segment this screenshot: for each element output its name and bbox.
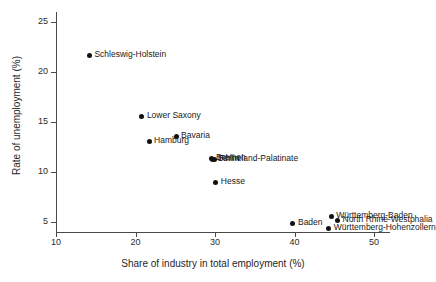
data-point (212, 157, 217, 162)
x-tick-label: 50 (359, 238, 389, 247)
x-tick-label: 20 (121, 238, 151, 247)
data-point (329, 214, 334, 219)
data-point-label: Hamburg (154, 136, 189, 145)
x-tick-label: 40 (280, 238, 310, 247)
data-point-label: Baden (298, 218, 323, 227)
y-tick (51, 72, 56, 73)
y-tick (51, 222, 56, 223)
x-tick-label: 30 (200, 238, 230, 247)
x-tick-label: 10 (41, 238, 71, 247)
data-point-label: Hesse (221, 177, 245, 186)
data-point-label: Rhineland-Palatinate (219, 154, 298, 163)
y-tick-label: 10 (28, 167, 48, 176)
data-point-label: Lower Saxony (147, 111, 201, 120)
x-axis-title: Share of industry in total employment (%… (0, 258, 426, 269)
y-tick-label: 25 (28, 17, 48, 26)
data-point (213, 180, 218, 185)
data-point (147, 139, 152, 144)
y-tick-label: 15 (28, 117, 48, 126)
y-tick (51, 122, 56, 123)
y-tick (51, 172, 56, 173)
data-point (139, 114, 144, 119)
data-point-label: Württemberg-Hohenzollern (334, 223, 436, 232)
y-tick-label: 5 (28, 217, 48, 226)
data-point (290, 221, 295, 226)
y-axis-line (56, 12, 57, 232)
y-tick (51, 22, 56, 23)
y-tick-label: 20 (28, 67, 48, 76)
y-axis-title: Rate of unemployment (%) (11, 21, 22, 211)
data-point (326, 226, 331, 231)
data-point (87, 53, 92, 58)
data-point-label: Schleswig-Holstein (94, 50, 166, 59)
x-axis-line (56, 232, 390, 233)
